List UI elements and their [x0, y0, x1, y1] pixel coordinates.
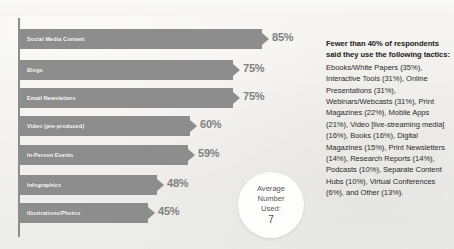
bar-end-arrow-icon [190, 120, 197, 132]
side-panel-body: Ebooks/White Papers (35%), Interactive T… [326, 62, 450, 199]
bar-end-arrow-icon [148, 207, 155, 219]
bar-label: Social Media Content [20, 36, 85, 42]
bar-value-label: 45% [158, 205, 179, 217]
bar-end-arrow-icon [262, 33, 269, 45]
bar-label: Blogs [20, 67, 43, 73]
bar-value-label: 75% [243, 62, 264, 74]
average-callout-line-3: Used: [261, 204, 281, 214]
bar-infographics[interactable]: Infographics [20, 175, 157, 195]
bar-social-media-content[interactable]: Social Media Content [20, 29, 262, 49]
bar-value-label: 59% [198, 147, 219, 159]
bar-end-arrow-icon [188, 149, 195, 161]
bar-value-label: 60% [200, 118, 221, 130]
bar-end-arrow-icon [233, 64, 240, 76]
bar-in-person-events[interactable]: In-Person Events [20, 145, 188, 165]
side-panel: Fewer than 40% of respondents said they … [326, 38, 450, 199]
average-number-used-callout: Average Number Used: 7 [238, 172, 304, 238]
average-callout-line-1: Average [257, 184, 285, 194]
bar-email-newsletters[interactable]: Email Newsletters [20, 88, 233, 108]
bar-label: Illustrations/Photos [20, 210, 80, 216]
side-panel-heading: Fewer than 40% of respondents said they … [326, 38, 450, 61]
bar-value-label: 85% [272, 31, 293, 43]
average-callout-value: 7 [268, 214, 274, 226]
bar-label: In-Person Events [20, 152, 73, 158]
bar-value-label: 48% [167, 177, 188, 189]
bar-label: Video (pre-produced) [20, 123, 84, 129]
bar-video-pre-produced[interactable]: Video (pre-produced) [20, 116, 190, 136]
bar-blogs[interactable]: Blogs [20, 60, 233, 80]
bar-label: Email Newsletters [20, 95, 76, 101]
bar-end-arrow-icon [157, 179, 164, 191]
bar-end-arrow-icon [233, 92, 240, 104]
bar-illustrations-photos[interactable]: Illustrations/Photos [20, 203, 148, 223]
average-callout-line-2: Number [257, 194, 284, 204]
bar-value-label: 75% [243, 90, 264, 102]
bar-label: Infographics [20, 182, 61, 188]
